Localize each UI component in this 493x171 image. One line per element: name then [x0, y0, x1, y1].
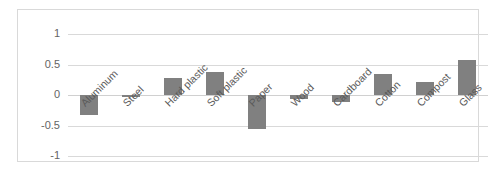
chart-plot-frame: 10.50-0.5-1 AluminumSteelHard plasticSof…: [17, 9, 479, 162]
gridline-neg1: [68, 156, 488, 157]
y-tick-label: -0.5: [24, 120, 60, 131]
y-tick-label: 1: [24, 28, 60, 39]
gridline-neg0-5: [68, 126, 488, 127]
y-tick-label: 0: [24, 89, 60, 100]
gridline-0neg5: [68, 65, 488, 66]
y-tick-label: -1: [24, 150, 60, 161]
gridline-1: [68, 34, 488, 35]
bar-chart: 10.50-0.5-1 AluminumSteelHard plasticSof…: [0, 0, 493, 171]
y-tick-label: 0.5: [24, 59, 60, 70]
